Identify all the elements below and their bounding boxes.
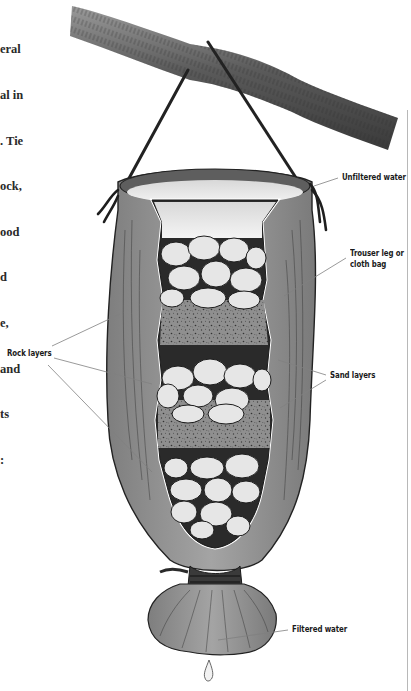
label-filtered-water: Filtered water <box>292 624 347 635</box>
book-page: eral al in . Tie ock, ood d e, and ts : <box>0 0 411 691</box>
page-edge-rule <box>407 110 408 691</box>
water-droplet <box>204 660 212 681</box>
label-text: Trouser leg or <box>350 248 404 259</box>
label-text: Rock layers <box>7 348 52 359</box>
label-trouser-leg-or-cloth-bag: Trouser leg or cloth bag <box>350 248 404 270</box>
label-text: Sand layers <box>330 370 375 381</box>
label-text: cloth bag <box>350 259 404 270</box>
water-filter-illustration <box>0 0 411 691</box>
label-text: Unfiltered water <box>342 172 406 183</box>
label-sand-layers: Sand layers <box>330 370 375 381</box>
label-text: Filtered water <box>292 624 347 635</box>
label-unfiltered-water: Unfiltered water <box>342 172 406 183</box>
tree-branch <box>70 6 398 150</box>
label-rock-layers: Rock layers <box>7 348 52 359</box>
cloth-bag <box>98 169 326 571</box>
bag-bottom-pouch <box>148 584 276 655</box>
